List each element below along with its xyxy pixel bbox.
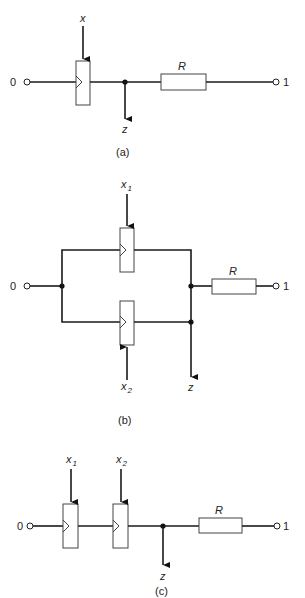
output-terminal-label: 1 bbox=[283, 76, 289, 88]
input-terminal-label: 0 bbox=[10, 280, 16, 292]
output-label-z: z bbox=[159, 570, 166, 582]
panel-b: 0 x1 x2 z R 1 (b) bbox=[10, 178, 289, 426]
caption-c: (c) bbox=[155, 585, 168, 597]
output-terminal-icon bbox=[273, 283, 279, 289]
output-terminal-icon bbox=[274, 523, 280, 529]
resistor-label: R bbox=[178, 60, 186, 72]
panel-a: 0 x z R 1 (a) bbox=[10, 12, 289, 158]
control-label-x1: x1 bbox=[65, 453, 77, 468]
junction-dot-icon bbox=[188, 319, 193, 324]
control-label-x2: x2 bbox=[115, 453, 128, 468]
input-terminal-icon bbox=[24, 283, 30, 289]
control-label-x1: x1 bbox=[120, 178, 132, 193]
panel-c: 0 x1 x2 z R 1 (c) bbox=[17, 453, 289, 597]
wire bbox=[62, 250, 120, 322]
input-terminal-icon bbox=[24, 79, 30, 85]
input-terminal-label: 0 bbox=[10, 76, 16, 88]
control-label-x: x bbox=[79, 12, 86, 24]
switch-element-1 bbox=[63, 504, 78, 548]
input-terminal-label: 0 bbox=[17, 520, 23, 532]
resistor bbox=[161, 74, 206, 90]
caption-b: (b) bbox=[118, 414, 131, 426]
switch-element-bottom bbox=[120, 301, 134, 345]
switch-element-2 bbox=[113, 504, 128, 548]
wire bbox=[134, 250, 191, 286]
switch-element bbox=[76, 61, 90, 105]
input-terminal-icon bbox=[27, 523, 33, 529]
output-terminal-label: 1 bbox=[283, 280, 289, 292]
control-label-x2: x2 bbox=[120, 380, 133, 395]
resistor-label: R bbox=[215, 504, 223, 516]
output-label-z: z bbox=[121, 123, 128, 135]
resistor-label: R bbox=[229, 265, 237, 277]
resistor bbox=[212, 279, 256, 294]
resistor bbox=[199, 518, 242, 533]
output-terminal-icon bbox=[273, 79, 279, 85]
output-label-z: z bbox=[187, 381, 194, 393]
caption-a: (a) bbox=[116, 146, 129, 158]
output-terminal-label: 1 bbox=[283, 520, 289, 532]
switch-element-top bbox=[120, 228, 134, 272]
